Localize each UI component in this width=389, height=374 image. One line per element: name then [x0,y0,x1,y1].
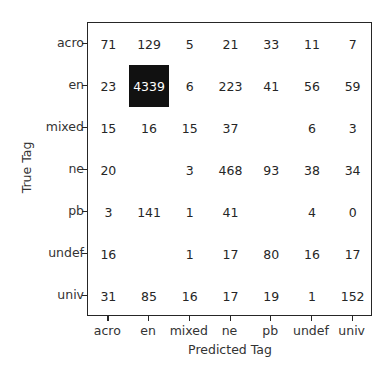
heatmap-cell: 3 [88,191,129,233]
heatmap-cell: 223 [210,65,251,107]
x-tick [270,316,271,321]
heatmap-cell: 468 [210,149,251,191]
heatmap-cell: 152 [332,275,373,317]
heatmap-cell: 11 [292,23,333,65]
heatmap-cell: 0 [332,191,373,233]
x-tick [189,316,190,321]
heatmap-cell: 129 [129,23,170,65]
heatmap-cell: 16 [169,275,210,317]
heatmap-cell [129,233,170,275]
heatmap-cell [129,149,170,191]
heatmap-cell: 33 [251,23,292,65]
x-tick [230,316,231,321]
heatmap-cell: 1 [169,191,210,233]
heatmap-cell: 1 [169,233,210,275]
y-tick [82,253,87,254]
heatmap-cell: 16 [129,107,170,149]
x-tick [311,316,312,321]
heatmap-cell: 17 [210,233,251,275]
heatmap-cell: 4339 [129,65,170,107]
y-tick [82,295,87,296]
x-tick [352,316,353,321]
heatmap-cell: 59 [332,65,373,107]
y-tick [82,211,87,212]
heatmap-cell: 5 [169,23,210,65]
y-tick [82,127,87,128]
heatmap-cell: 56 [292,65,333,107]
heatmap-cell: 37 [210,107,251,149]
heatmap-cell: 3 [332,107,373,149]
heatmap-cell: 15 [88,107,129,149]
y-tick-label: pb [4,203,84,218]
heatmap-cell: 6 [292,107,333,149]
x-tick-label: univ [322,323,382,338]
y-tick-label: mixed [4,119,84,134]
heatmap-cell: 141 [129,191,170,233]
heatmap-cell: 71 [88,23,129,65]
y-tick-label: acro [4,35,84,50]
heatmap-cell: 17 [210,275,251,317]
heatmap-cell: 4 [292,191,333,233]
heatmap-cell: 31 [88,275,129,317]
heatmap-cell: 19 [251,275,292,317]
y-tick [82,169,87,170]
heatmap-cell: 7 [332,23,373,65]
heatmap-cell [251,107,292,149]
y-tick-label: undef [4,245,84,260]
heatmap-cell: 21 [210,23,251,65]
heatmap-cell: 17 [332,233,373,275]
heatmap-cell: 16 [292,233,333,275]
y-tick [82,43,87,44]
heatmap-cell: 3 [169,149,210,191]
y-tick-label: en [4,77,84,92]
chart-title: Confusion Matrix [87,0,373,3]
heatmap-cell: 85 [129,275,170,317]
y-tick-label: univ [4,287,84,302]
heatmap-cell: 41 [251,65,292,107]
heatmap-cell: 16 [88,233,129,275]
heatmap-frame: 7112952133117234339622341565915161537632… [87,22,372,316]
heatmap-cell: 38 [292,149,333,191]
heatmap-cell: 6 [169,65,210,107]
heatmap-cell: 1 [292,275,333,317]
x-tick [148,316,149,321]
y-tick-label: ne [4,161,84,176]
heatmap-cell: 20 [88,149,129,191]
heatmap-cell: 80 [251,233,292,275]
xaxis-title: Predicted Tag [87,342,373,357]
heatmap-cell: 34 [332,149,373,191]
heatmap-cell [251,191,292,233]
heatmap-cell: 23 [88,65,129,107]
heatmap-cell: 93 [251,149,292,191]
heatmap-cell: 41 [210,191,251,233]
x-tick [107,316,108,321]
y-tick [82,85,87,86]
heatmap-cell: 15 [169,107,210,149]
